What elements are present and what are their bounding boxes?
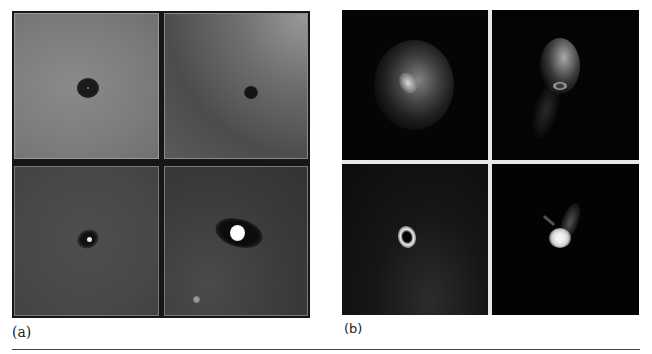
panel-label-b: (b)	[344, 321, 362, 336]
micrograph-b-top-left	[342, 10, 488, 160]
spot-core	[87, 87, 89, 89]
bright-ring	[395, 224, 418, 250]
micrograph-a-top-right	[164, 13, 308, 159]
micrograph-a-bottom-left	[14, 166, 159, 316]
faint-spot	[193, 296, 200, 303]
figure-bottom-rule	[12, 349, 640, 350]
bright-dot	[87, 237, 92, 242]
dark-spot	[244, 86, 258, 99]
figure-panel-b	[342, 10, 639, 315]
bright-body	[549, 228, 571, 248]
micrograph-a-top-left	[14, 13, 159, 159]
bright-ring	[553, 82, 567, 90]
micrograph-b-bottom-left	[342, 164, 488, 315]
micrograph-b-top-right	[492, 10, 639, 160]
micrograph-b-bottom-right	[492, 164, 639, 315]
cell-spike	[543, 215, 556, 226]
panel-label-a: (a)	[12, 324, 31, 340]
figure-panel-a	[12, 11, 310, 318]
bright-core	[230, 225, 245, 241]
micrograph-a-bottom-right	[164, 166, 308, 316]
